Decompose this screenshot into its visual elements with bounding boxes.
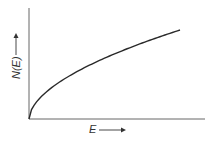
y-axis-label: N(E)	[10, 56, 22, 79]
x-arrowhead-icon	[121, 128, 126, 133]
y-arrowhead-icon	[14, 33, 19, 38]
chart-canvas: E N(E)	[0, 0, 213, 141]
n-of-e-curve	[29, 30, 180, 119]
x-axis-label: E	[89, 123, 97, 135]
